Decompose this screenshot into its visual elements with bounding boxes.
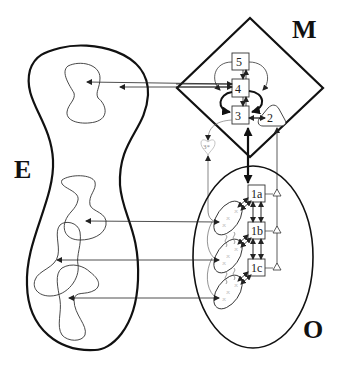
svg-text:≍: ≍ xyxy=(226,290,230,295)
vsm-diagram: E M 5 4 3 2 xyxy=(0,0,344,369)
system-3-label: 3 xyxy=(235,109,241,123)
operation-unit-c: ≍≍≍ xyxy=(208,270,248,314)
svg-text:≍: ≍ xyxy=(226,216,230,221)
system-1a-label: 1a xyxy=(251,187,263,201)
svg-text:≍: ≍ xyxy=(234,209,238,214)
system-4-label: 4 xyxy=(235,82,241,96)
environment-boundary xyxy=(27,45,148,350)
management-label: M xyxy=(292,15,317,44)
environment-region: E xyxy=(14,45,148,350)
operation-unit-a: ≍≍≍ xyxy=(208,196,248,240)
system-5-label: 5 xyxy=(236,55,242,69)
management-region: M 5 4 3 2 xyxy=(177,15,323,157)
environment-label: E xyxy=(14,155,31,184)
system-3star: 3* xyxy=(201,120,232,210)
svg-text:≍: ≍ xyxy=(222,261,226,266)
svg-text:≍: ≍ xyxy=(222,223,226,228)
environment-subregion-4 xyxy=(57,265,98,340)
svg-text:≍: ≍ xyxy=(234,247,238,252)
system-3star-label: 3* xyxy=(203,143,211,151)
system-1c-label: 1c xyxy=(251,261,262,275)
environment-subregion-1 xyxy=(65,63,105,123)
system-1b-label: 1b xyxy=(251,224,263,238)
operations-region: O 1a 1b 1c ≍≍≍ ≍≍≍ ≍≍≍ xyxy=(193,166,323,348)
operations-label: O xyxy=(303,315,323,344)
svg-text:≍: ≍ xyxy=(226,254,230,259)
svg-text:≍: ≍ xyxy=(234,283,238,288)
svg-text:≍: ≍ xyxy=(222,297,226,302)
environment-subregion-2 xyxy=(62,176,107,240)
system-2-label: 2 xyxy=(267,111,273,125)
